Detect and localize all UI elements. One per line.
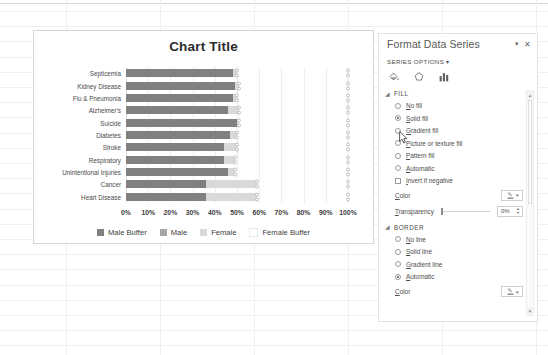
radio-button[interactable]: [395, 103, 401, 109]
transparency-spinner[interactable]: 0%▲▼: [497, 206, 523, 217]
series-selection-handle[interactable]: [346, 80, 350, 91]
option-label: Automatic: [406, 165, 434, 172]
radio-button[interactable]: [395, 153, 401, 159]
scroll-up-arrow-icon[interactable]: ▲: [527, 91, 533, 99]
radio-button[interactable]: [395, 261, 401, 267]
series-selection-handle[interactable]: [235, 92, 239, 103]
border-option-2[interactable]: Gradient line: [395, 261, 523, 268]
series-selection-handle[interactable]: [346, 130, 350, 141]
fill-section-header[interactable]: ◢FILL: [385, 90, 523, 97]
border-color-row[interactable]: Color▾: [395, 286, 523, 297]
radio-button[interactable]: [395, 236, 401, 242]
pane-scrollbar[interactable]: ▲ ▼: [526, 90, 534, 316]
legend-swatch: [249, 228, 258, 237]
chevron-down-icon[interactable]: ▾: [515, 40, 519, 48]
legend-item[interactable]: Female: [200, 228, 236, 237]
slider-knob[interactable]: [441, 208, 443, 215]
invert-if-negative-option[interactable]: Invert if negative: [395, 177, 523, 184]
border-section-header[interactable]: ◢BORDER: [385, 224, 523, 231]
worksheet-top-rule: [0, 3, 548, 4]
bar-row[interactable]: [126, 180, 348, 188]
bar-segment[interactable]: [126, 119, 237, 127]
pane-tab-row[interactable]: [387, 70, 451, 84]
border-color-picker[interactable]: ▾: [501, 286, 523, 297]
bar-segment[interactable]: [126, 193, 206, 201]
spinner-arrows-icon[interactable]: ▲▼: [516, 207, 522, 215]
bar-segment[interactable]: [126, 168, 228, 176]
radio-button[interactable]: [395, 249, 401, 255]
fill-color-picker[interactable]: ▾: [501, 190, 523, 201]
series-selection-handle[interactable]: [233, 167, 237, 178]
format-data-series-pane[interactable]: Format Data Series ▾ ✕ SERIES OPTIONS ▾: [378, 33, 538, 322]
legend-item[interactable]: Male: [160, 228, 187, 237]
fill-option-4[interactable]: Pattern fill: [395, 152, 523, 159]
series-selection-handle[interactable]: [237, 117, 241, 128]
bar-segment[interactable]: [126, 82, 235, 90]
series-selection-handle[interactable]: [346, 92, 350, 103]
transparency-slider[interactable]: [441, 211, 490, 212]
transparency-value: 0%: [498, 208, 510, 214]
bar-segment[interactable]: [126, 69, 233, 77]
bar-row[interactable]: [126, 168, 348, 176]
series-selection-handle[interactable]: [235, 130, 239, 141]
series-selection-handle[interactable]: [346, 117, 350, 128]
bar-segment[interactable]: [126, 131, 230, 139]
pentagon-effects-icon[interactable]: [412, 70, 426, 84]
fill-option-5[interactable]: Automatic: [395, 165, 523, 172]
series-options-dropdown[interactable]: SERIES OPTIONS ▾: [387, 58, 450, 65]
series-selection-handle[interactable]: [346, 179, 350, 190]
bar-chart-icon[interactable]: [437, 70, 451, 84]
close-icon[interactable]: ✕: [524, 40, 531, 49]
series-selection-handle[interactable]: [346, 191, 350, 202]
series-selection-handle[interactable]: [235, 68, 239, 79]
bar-segment[interactable]: [126, 156, 224, 164]
paint-bucket-icon[interactable]: [387, 70, 401, 84]
legend-item[interactable]: Female Buffer: [249, 228, 310, 237]
section-heading: FILL: [394, 90, 409, 97]
scroll-down-arrow-icon[interactable]: ▼: [527, 307, 533, 315]
series-selection-handle[interactable]: [346, 68, 350, 79]
plot-area[interactable]: 0%10%20%30%40%50%60%70%80%90%100%Septice…: [126, 67, 348, 231]
bar-segment[interactable]: [126, 106, 228, 114]
series-selection-handle[interactable]: [237, 105, 241, 116]
fill-option-0[interactable]: No fill: [395, 102, 523, 109]
option-label: No line: [406, 236, 426, 243]
bar-segment[interactable]: [126, 94, 233, 102]
grid-row-line: [0, 345, 548, 346]
radio-button[interactable]: [395, 274, 401, 280]
bar-row[interactable]: [126, 156, 348, 164]
series-selection-handle[interactable]: [255, 191, 259, 202]
category-axis-label: Respiratory: [89, 156, 121, 163]
series-selection-handle[interactable]: [233, 154, 237, 165]
checkbox[interactable]: [395, 178, 401, 184]
chart-title[interactable]: Chart Title: [34, 39, 373, 54]
bar-segment[interactable]: [126, 180, 206, 188]
transparency-row[interactable]: Transparency0%▲▼: [395, 206, 523, 217]
bar-row[interactable]: [126, 193, 348, 201]
series-options-label: SERIES OPTIONS: [387, 58, 444, 65]
radio-button[interactable]: [395, 115, 401, 121]
fill-option-1[interactable]: Solid fill: [395, 115, 523, 122]
bar-segment[interactable]: [206, 180, 257, 188]
series-selection-handle[interactable]: [235, 142, 239, 153]
chart-object[interactable]: Chart Title 0%10%20%30%40%50%60%70%80%90…: [33, 30, 374, 244]
series-selection-handle[interactable]: [346, 105, 350, 116]
border-option-0[interactable]: No line: [395, 236, 523, 243]
chart-legend[interactable]: Male BufferMaleFemaleFemale Buffer: [34, 228, 373, 237]
series-selection-handle[interactable]: [346, 167, 350, 178]
series-selection-handle[interactable]: [237, 80, 241, 91]
fill-color-row[interactable]: Color▾: [395, 190, 523, 201]
series-selection-handle[interactable]: [346, 154, 350, 165]
bar-segment[interactable]: [206, 193, 257, 201]
fill-option-3[interactable]: Picture or texture fill: [395, 140, 523, 147]
bar-segment[interactable]: [126, 143, 224, 151]
scrollbar-thumb[interactable]: [528, 100, 532, 204]
series-selection-handle[interactable]: [346, 142, 350, 153]
legend-item[interactable]: Male Buffer: [97, 228, 147, 237]
series-selection-handle[interactable]: [255, 179, 259, 190]
fill-option-2[interactable]: Gradient fill: [395, 127, 523, 134]
border-option-1[interactable]: Solid line: [395, 248, 523, 255]
pane-title: Format Data Series: [387, 38, 480, 50]
border-option-3[interactable]: Automatic: [395, 273, 523, 280]
radio-button[interactable]: [395, 165, 401, 171]
